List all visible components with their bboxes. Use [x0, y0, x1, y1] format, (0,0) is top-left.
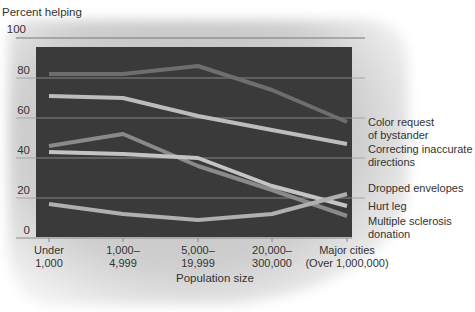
legend-multiple-sclerosis: Multiple sclerosis donation	[368, 215, 475, 241]
x-axis-title: Population size	[160, 272, 270, 284]
legend-color-request: Color request of bystander	[368, 116, 475, 142]
legend-hurt-leg: Hurt leg	[368, 200, 475, 213]
x-tick-major-cities: Major cities (Over 1,000,000)	[292, 244, 402, 270]
legend-dropped-envelopes: Dropped envelopes	[368, 182, 475, 195]
legend-correcting-directions: Correcting inaccurate directions	[368, 143, 475, 169]
